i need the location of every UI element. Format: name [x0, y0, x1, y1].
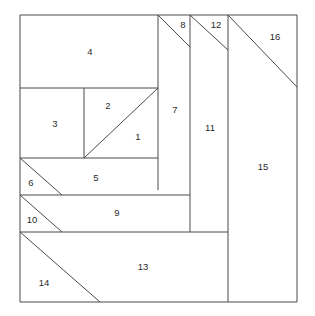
piece-label-7: 7	[172, 104, 177, 115]
piece-label-10: 10	[27, 214, 38, 225]
piece-label-16: 16	[270, 31, 281, 42]
piece-label-6: 6	[28, 177, 33, 188]
piece-label-11: 11	[205, 122, 215, 133]
piece-label-2: 2	[105, 100, 110, 111]
piece-label-1: 1	[135, 131, 140, 142]
piece-label-4: 4	[87, 46, 92, 57]
piece-label-5: 5	[93, 172, 98, 183]
piece-label-12: 12	[211, 19, 222, 30]
piece-label-9: 9	[114, 207, 119, 218]
piecing-diagram-root: 12345678910111213141516	[0, 0, 315, 316]
piece-label-13: 13	[138, 261, 149, 272]
piece-label-3: 3	[52, 118, 57, 129]
piece-label-14: 14	[39, 277, 50, 288]
piece-label-8: 8	[180, 19, 185, 30]
piece-label-15: 15	[258, 161, 269, 172]
piecing-diagram-canvas: 12345678910111213141516	[0, 0, 315, 316]
